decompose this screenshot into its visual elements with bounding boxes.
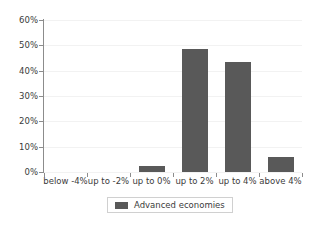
bar[interactable]: [225, 62, 251, 172]
x-axis-tick-mark: [44, 173, 45, 177]
bar[interactable]: [182, 49, 208, 172]
y-axis-tick-label: 30%: [4, 92, 38, 101]
y-axis-tick-mark: [39, 172, 43, 173]
x-axis-tick-label: below -4%: [43, 176, 87, 186]
y-axis-tick-label: 10%: [4, 142, 38, 151]
y-axis-tick-mark: [39, 147, 43, 148]
bar[interactable]: [139, 166, 165, 172]
bar-slot: [87, 20, 130, 172]
x-axis-tick-mark: [259, 173, 260, 177]
x-axis-tick-label: up to 4%: [218, 176, 256, 186]
x-axis-tick-mark: [130, 173, 131, 177]
y-axis-tick-mark: [39, 96, 43, 97]
bar[interactable]: [268, 157, 294, 172]
bar-slot: [259, 20, 302, 172]
y-axis-labels: 0%10%20%30%40%50%60%: [0, 0, 38, 229]
x-axis-tick-label: above 4%: [259, 176, 301, 186]
x-axis-labels: below -4%up to -2%up to 0%up to 2%up to …: [44, 176, 302, 190]
x-axis-tick-label: up to 2%: [175, 176, 213, 186]
chart-legend: Advanced economies: [107, 197, 233, 213]
x-axis-tick-label: up to 0%: [132, 176, 170, 186]
bar-slot: [173, 20, 216, 172]
y-axis-tick-mark: [39, 45, 43, 46]
plot-area: [44, 20, 302, 172]
legend-color-swatch: [115, 202, 128, 209]
bar-slot: [216, 20, 259, 172]
x-axis-tick-mark: [87, 173, 88, 177]
y-axis-tick-label: 20%: [4, 117, 38, 126]
bar-slot: [130, 20, 173, 172]
bar-chart: 0%10%20%30%40%50%60% below -4%up to -2%u…: [0, 0, 315, 229]
y-axis-tick-mark: [39, 71, 43, 72]
y-axis-tick-label: 0%: [4, 168, 38, 177]
x-axis-tick-mark: [216, 173, 217, 177]
y-axis-tick-label: 40%: [4, 66, 38, 75]
y-axis-tick-label: 60%: [4, 16, 38, 25]
legend-label: Advanced economies: [134, 201, 225, 210]
y-axis-tick-label: 50%: [4, 41, 38, 50]
bar-slot: [44, 20, 87, 172]
y-axis-tick-mark: [39, 121, 43, 122]
x-axis-tick-label: up to -2%: [88, 176, 129, 186]
y-axis-tick-mark: [39, 20, 43, 21]
x-axis-tick-mark: [173, 173, 174, 177]
x-axis-tick-mark: [302, 173, 303, 177]
